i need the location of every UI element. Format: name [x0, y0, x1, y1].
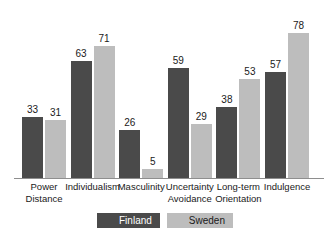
bar-finland-masculinity	[119, 130, 140, 178]
category-label-line: Orientation	[207, 193, 269, 205]
bar-value-label: 63	[66, 48, 96, 59]
bar-value-label: 38	[212, 94, 242, 105]
bar-value-label: 5	[138, 156, 168, 167]
bar-value-label: 29	[186, 111, 216, 122]
bar-value-label: 59	[163, 55, 193, 66]
bar-finland-power-distance	[22, 117, 43, 178]
bar-value-label: 71	[89, 33, 119, 44]
bar-value-label: 57	[261, 59, 291, 70]
bar-finland-uncertainty-avoidance	[168, 68, 189, 178]
chart-legend: FinlandSweden	[0, 213, 330, 228]
bar-finland-indulgence	[265, 72, 286, 178]
x-axis-baseline	[14, 178, 324, 179]
bar-value-label: 31	[41, 107, 71, 118]
bar-sweden-uncertainty-avoidance	[191, 124, 212, 178]
bar-group: 265	[119, 0, 163, 178]
legend-item-finland[interactable]: Finland	[97, 213, 160, 228]
bar-finland-long-term-orientation	[216, 107, 237, 178]
bar-finland-individualism	[71, 61, 92, 178]
hofstede-dimensions-bar-chart: 33316371265592938535778 PowerDistanceInd…	[0, 0, 330, 238]
category-label-line: Distance	[13, 193, 75, 205]
bar-sweden-indulgence	[288, 33, 309, 178]
legend-item-sweden[interactable]: Sweden	[167, 213, 233, 228]
bar-group: 5778	[265, 0, 309, 178]
bar-sweden-long-term-orientation	[239, 79, 260, 178]
category-axis: PowerDistanceIndividualismMasculinityUnc…	[0, 181, 330, 211]
bar-group: 3331	[22, 0, 66, 178]
bar-sweden-individualism	[94, 46, 115, 178]
bar-group: 3853	[216, 0, 260, 178]
bar-value-label: 26	[115, 117, 145, 128]
category-label-indulgence: Indulgence	[256, 181, 318, 193]
bar-sweden-power-distance	[45, 120, 66, 178]
category-label-line: Indulgence	[256, 181, 318, 193]
bar-sweden-masculinity	[142, 169, 163, 178]
bar-group: 5929	[168, 0, 212, 178]
plot-area: 33316371265592938535778	[0, 0, 330, 179]
bar-value-label: 78	[284, 20, 314, 31]
bar-group: 6371	[71, 0, 115, 178]
